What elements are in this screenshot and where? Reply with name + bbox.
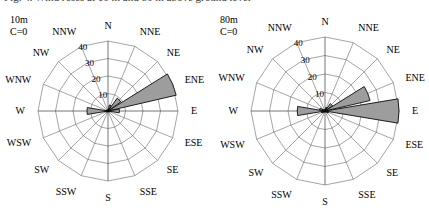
- direction-label-NNE: NNE: [358, 22, 379, 33]
- windrose-panel-80m: 80m C=0 NNNENEENEEESESESSESSSWSWWSWWWNWN…: [214, 0, 429, 210]
- radial-tick-label-10: 10: [98, 90, 108, 100]
- grid-spoke-NW: [59, 62, 109, 112]
- windrose-panel-10m: 10m C=0 NNNENEENEEESESESSESSSWSWWSWWWNWN…: [0, 0, 214, 210]
- direction-label-NE: NE: [167, 47, 180, 58]
- direction-label-S: S: [322, 196, 328, 207]
- petal-W: [87, 108, 108, 115]
- petal-W: [297, 106, 325, 115]
- radial-tick-label-40: 40: [78, 42, 88, 52]
- grid-spoke-NW: [273, 59, 325, 111]
- direction-label-SSE: SSE: [358, 189, 375, 200]
- wind-rose-figure: Fig. 4. Wind roses at 10 m and 80 m abov…: [0, 0, 429, 210]
- direction-label-SSE: SSE: [140, 186, 157, 197]
- direction-label-N: N: [321, 16, 328, 27]
- radial-tick-label-30: 30: [85, 58, 95, 68]
- direction-label-WNW: WNW: [219, 72, 246, 83]
- direction-label-NW: NW: [247, 44, 264, 55]
- direction-label-SW: SW: [34, 164, 50, 175]
- radial-tick-label-30: 30: [301, 55, 311, 65]
- direction-label-WNW: WNW: [5, 74, 32, 85]
- direction-label-S: S: [105, 192, 111, 203]
- direction-label-ENE: ENE: [405, 72, 424, 83]
- petal-NNW: [324, 110, 325, 111]
- direction-label-SSW: SSW: [271, 189, 292, 200]
- grid-spoke-SW: [273, 111, 325, 163]
- direction-label-NNW: NNW: [268, 22, 292, 33]
- radial-tick-label-20: 20: [308, 72, 318, 82]
- direction-label-W: W: [229, 105, 239, 116]
- direction-label-ENE: ENE: [185, 74, 204, 85]
- direction-label-SE: SE: [167, 164, 179, 175]
- direction-label-N: N: [104, 20, 111, 31]
- direction-label-NW: NW: [33, 47, 50, 58]
- windrose-plot-80m: NNNENEENEEESESESSESSSWSWWSWWWNWNWNNW1020…: [214, 0, 429, 210]
- direction-label-ESE: ESE: [185, 137, 203, 148]
- direction-label-NNE: NNE: [140, 26, 161, 37]
- direction-label-W: W: [16, 105, 26, 116]
- windrose-plot-10m: NNNENEENEEESESESSESSSWSWWSWWWNWNWNNW1020…: [0, 0, 214, 210]
- direction-label-E: E: [191, 105, 197, 116]
- radial-tick-label-40: 40: [294, 38, 304, 48]
- radial-tick-label-20: 20: [92, 74, 102, 84]
- radial-tick-label-10: 10: [315, 89, 325, 99]
- direction-label-ESE: ESE: [405, 139, 423, 150]
- direction-label-NE: NE: [387, 44, 400, 55]
- direction-label-WSW: WSW: [7, 137, 32, 148]
- direction-label-E: E: [412, 105, 418, 116]
- direction-label-SE: SE: [387, 167, 399, 178]
- grid-spoke-SW: [59, 111, 109, 161]
- grid-spoke-SE: [108, 111, 158, 161]
- direction-label-WSW: WSW: [220, 139, 245, 150]
- direction-label-SW: SW: [248, 167, 264, 178]
- direction-label-SSW: SSW: [56, 186, 77, 197]
- grid-spoke-SE: [325, 111, 377, 163]
- direction-label-NNW: NNW: [52, 26, 76, 37]
